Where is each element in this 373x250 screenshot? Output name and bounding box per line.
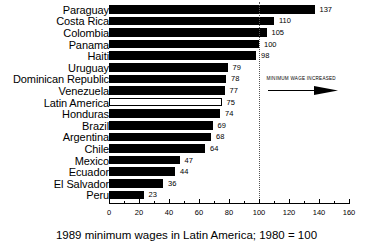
bar: [109, 191, 144, 200]
bar-track: 110: [109, 16, 349, 28]
category-label: Haiti: [87, 51, 109, 62]
bar-value-label: 137: [320, 6, 333, 14]
bar-row: Brazil69: [0, 120, 373, 132]
bar-value-label: 98: [261, 52, 269, 60]
bar-track: 36: [109, 178, 349, 190]
plot-area: Paraguay137Costa Rica110Colombia105Panam…: [0, 0, 373, 204]
category-label: Brazil: [82, 120, 109, 131]
bar-track: 105: [109, 27, 349, 39]
x-tick-label: 80: [225, 208, 233, 217]
x-tick-major: [109, 199, 110, 204]
bar-value-label: 79: [233, 64, 241, 72]
category-label: Mexico: [75, 155, 109, 166]
bar-value-label: 64: [210, 145, 218, 153]
bar-row: Ecuador44: [0, 166, 373, 178]
bar-row: Peru23: [0, 190, 373, 202]
category-label: Costa Rica: [56, 16, 109, 27]
bar-row: Uruguay79: [0, 62, 373, 74]
bar-value-label: 68: [216, 133, 224, 141]
bar-value-label: 47: [185, 157, 193, 165]
bar-track: 47: [109, 155, 349, 167]
bar-value-label: 36: [168, 180, 176, 188]
bar-row: Panama100: [0, 39, 373, 51]
category-label: Colombia: [63, 27, 109, 38]
bar: [109, 63, 228, 72]
bar-track: 64: [109, 143, 349, 155]
x-tick-minor: [334, 201, 335, 204]
bar-row: Colombia105: [0, 27, 373, 39]
bar: [109, 156, 180, 165]
bar: [109, 5, 315, 14]
category-label: Latin America: [44, 97, 109, 108]
bar-row: Honduras74: [0, 108, 373, 120]
bar: [109, 75, 226, 84]
x-tick-label: 40: [165, 208, 173, 217]
bar: [109, 86, 225, 95]
minimum-wage-bar-chart: Paraguay137Costa Rica110Colombia105Panam…: [0, 0, 373, 250]
x-tick-minor: [184, 201, 185, 204]
bar-row: El Salvador36: [0, 178, 373, 190]
x-tick-minor: [304, 201, 305, 204]
bar: [109, 144, 205, 153]
x-tick-label: 120: [283, 208, 296, 217]
bar: [109, 133, 211, 142]
x-tick-major: [229, 199, 230, 204]
bar: [109, 167, 175, 176]
bar-track: 69: [109, 120, 349, 132]
bar-row: Costa Rica110: [0, 16, 373, 28]
bar-value-label: 23: [149, 191, 157, 199]
bar-track: 75: [109, 97, 349, 109]
x-tick-label: 100: [253, 208, 266, 217]
bar-row: Latin America75: [0, 97, 373, 109]
bar-value-label: 110: [279, 17, 291, 25]
x-tick-minor: [154, 201, 155, 204]
chart-caption: 1989 minimum wages in Latin America; 198…: [0, 228, 373, 242]
bar-value-label: 75: [227, 99, 235, 107]
bar-row: Paraguay137: [0, 4, 373, 16]
x-tick-minor: [124, 201, 125, 204]
bar-value-label: 77: [230, 87, 238, 95]
x-tick-minor: [244, 201, 245, 204]
x-tick-label: 20: [135, 208, 143, 217]
bar: [109, 51, 256, 60]
bar: [109, 98, 222, 107]
bar: [109, 40, 259, 49]
bar-value-label: 44: [180, 168, 188, 176]
bar-row: Haiti98: [0, 50, 373, 62]
bar-track: 68: [109, 132, 349, 144]
bar: [109, 109, 220, 118]
x-tick-major: [289, 199, 290, 204]
bar-value-label: 74: [225, 110, 233, 118]
x-tick-label: 60: [195, 208, 203, 217]
reference-line-100: [259, 2, 260, 204]
x-tick-major: [139, 199, 140, 204]
x-tick-label: 140: [313, 208, 326, 217]
bar-track: 74: [109, 108, 349, 120]
category-label: Panama: [69, 39, 109, 50]
bar-track: 79: [109, 62, 349, 74]
category-label: El Salvador: [54, 178, 109, 189]
bar-value-label: 105: [272, 29, 285, 37]
bar: [109, 17, 274, 26]
bar-track: 100: [109, 39, 349, 51]
bar-value-label: 78: [231, 75, 239, 83]
category-label: Ecuador: [69, 167, 109, 178]
bar: [109, 179, 163, 188]
category-label: Honduras: [62, 109, 109, 120]
category-label: Chile: [84, 143, 109, 154]
x-tick-minor: [214, 201, 215, 204]
category-label: Dominican Republic: [13, 74, 109, 85]
bar: [109, 121, 213, 130]
category-label: Venezuela: [59, 85, 109, 96]
bar-row: Argentina68: [0, 132, 373, 144]
x-tick-major: [169, 199, 170, 204]
bar-value-label: 69: [218, 122, 226, 130]
minimum-wage-increased-annotation: MINIMUM WAGE INCREASED: [267, 76, 336, 82]
category-label: Argentina: [63, 132, 109, 143]
bar-row: Mexico47: [0, 155, 373, 167]
bar-track: 44: [109, 166, 349, 178]
x-tick-label: 0: [107, 208, 111, 217]
x-tick-major: [199, 199, 200, 204]
bar-value-label: 100: [264, 41, 277, 49]
x-tick-minor: [274, 201, 275, 204]
